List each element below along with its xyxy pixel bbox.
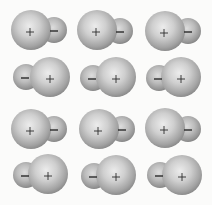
polar-molecules-diagram <box>0 0 212 205</box>
positive-atom-sphere <box>11 10 51 50</box>
positive-atom-sphere <box>145 108 185 148</box>
positive-atom-sphere <box>145 11 185 51</box>
positive-atom-sphere <box>77 10 117 50</box>
positive-atom-sphere <box>79 109 119 149</box>
positive-atom-sphere <box>11 109 51 149</box>
